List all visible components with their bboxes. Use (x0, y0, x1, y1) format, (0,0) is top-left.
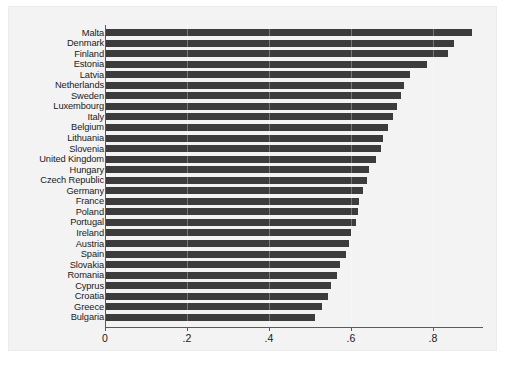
category-label: Croatia (75, 291, 104, 301)
y-axis-category-labels: MaltaDenmarkFinlandEstoniaLatviaNetherla… (0, 25, 104, 325)
bar (105, 145, 381, 152)
x-axis-line (105, 327, 483, 328)
x-tick-label: .2 (183, 332, 192, 344)
bar (105, 124, 388, 131)
bar (105, 240, 349, 247)
bar (105, 261, 340, 268)
bar (105, 113, 393, 120)
bar (105, 272, 337, 279)
bar (105, 187, 363, 194)
x-tick-mark (351, 327, 352, 331)
gridline (187, 25, 188, 327)
category-label: France (76, 196, 104, 206)
bar (105, 219, 356, 226)
category-label: United Kingdom (39, 154, 104, 164)
x-tick-label: .6 (347, 332, 356, 344)
bar (105, 208, 358, 215)
y-axis-line (105, 25, 106, 327)
x-tick-label: 0 (102, 332, 108, 344)
bar (105, 198, 359, 205)
category-label: Ireland (76, 228, 104, 238)
bar-series (105, 25, 482, 325)
bar (105, 82, 404, 89)
bar (105, 156, 376, 163)
x-tick-mark (105, 327, 106, 331)
category-label: Poland (76, 207, 104, 217)
bar (105, 229, 351, 236)
category-label: Finland (74, 49, 104, 59)
category-label: Sweden (71, 91, 104, 101)
category-label: Italy (87, 112, 104, 122)
category-label: Slovakia (70, 260, 104, 270)
category-label: Cyprus (75, 281, 104, 291)
gridline (269, 25, 270, 327)
plot-area: MaltaDenmarkFinlandEstoniaLatviaNetherla… (0, 0, 509, 368)
bar (105, 92, 401, 99)
category-label: Germany (66, 186, 104, 196)
x-tick-mark (269, 327, 270, 331)
bar (105, 166, 369, 173)
category-label: Slovenia (69, 144, 104, 154)
category-label: Hungary (70, 165, 104, 175)
bar (105, 314, 315, 321)
bar (105, 71, 410, 78)
gridline (433, 25, 434, 327)
category-label: Czech Republic (40, 175, 104, 185)
x-tick-label: .4 (265, 332, 274, 344)
category-label: Lithuania (67, 133, 104, 143)
chart-figure: MaltaDenmarkFinlandEstoniaLatviaNetherla… (0, 0, 509, 368)
category-label: Portugal (70, 217, 104, 227)
x-tick-mark (433, 327, 434, 331)
bar (105, 61, 427, 68)
category-label: Belgium (71, 122, 104, 132)
category-label: Luxembourg (53, 101, 104, 111)
gridline (351, 25, 352, 327)
x-tick-label: .8 (429, 332, 438, 344)
category-label: Netherlands (55, 80, 104, 90)
bar (105, 50, 448, 57)
category-label: Romania (67, 270, 104, 280)
category-label: Greece (74, 302, 104, 312)
category-label: Latvia (80, 70, 104, 80)
bar (105, 282, 331, 289)
bar (105, 135, 383, 142)
bar (105, 29, 472, 36)
bar (105, 303, 322, 310)
category-label: Malta (82, 28, 104, 38)
bar (105, 103, 397, 110)
x-tick-mark (187, 327, 188, 331)
category-label: Austria (76, 239, 104, 249)
category-label: Spain (81, 249, 104, 259)
bar (105, 293, 328, 300)
bar (105, 177, 367, 184)
bar (105, 40, 454, 47)
category-label: Bulgaria (71, 312, 104, 322)
category-label: Estonia (74, 59, 104, 69)
bar (105, 251, 346, 258)
category-label: Denmark (67, 38, 104, 48)
